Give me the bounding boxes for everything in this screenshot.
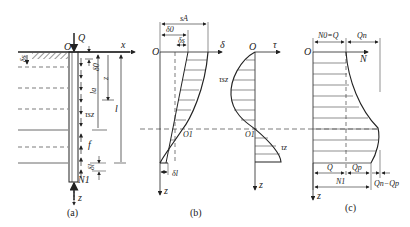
la-label: la: [89, 88, 98, 94]
pile-length-label: l: [115, 103, 118, 114]
z-axis-label: z: [77, 192, 82, 203]
N1-label: N1: [335, 177, 345, 186]
origin-c-label: O: [304, 46, 311, 57]
pile-load-diagram: x O Q δs τsz: [0, 0, 410, 227]
x-axis-label: x: [120, 39, 126, 50]
soil-settlement-curve: [160, 52, 208, 163]
neutral-point-label-b: O1: [183, 130, 193, 139]
N-axis-label: N: [359, 53, 368, 64]
panel-a: x O Q δs τsz: [18, 32, 135, 219]
tau-z-label: τz: [281, 143, 288, 152]
load-label: Q: [78, 32, 86, 43]
friction-f-label: f: [88, 139, 92, 150]
tau-axis-label: τ: [273, 39, 277, 50]
origin-tau-label: O: [249, 41, 256, 52]
shear-stress-plot: O τ z τsz O1 τz: [219, 39, 288, 190]
panel-b: O δ z O1 sA δ0: [152, 14, 225, 219]
pile-head-displacement-label: δ0: [92, 63, 101, 71]
tip-reaction-label: N1: [77, 174, 90, 185]
tau-sz-label: τsz: [219, 75, 229, 84]
shear-stress-curve: [231, 52, 281, 162]
sa-label: sA: [180, 14, 188, 23]
shear-stress-label: τsz: [85, 110, 95, 119]
z-axis-b-label: z: [163, 185, 168, 196]
ds-label: δs: [178, 36, 185, 45]
panel-b-caption: (b): [190, 207, 202, 219]
z-axis-tau-label: z: [258, 179, 263, 190]
Qp-label: Qp: [352, 163, 362, 172]
soil-settlement-label: δs: [19, 55, 28, 62]
pile-tip-displacement-label: δl: [87, 163, 96, 170]
soil-hatch: [32, 53, 68, 59]
Qn-label: Qn: [357, 31, 367, 40]
panel-a-caption: (a): [67, 207, 78, 219]
z-axis-c-label: z: [316, 190, 321, 201]
panel-c-caption: (c): [345, 202, 356, 214]
dl-label: δl: [172, 169, 179, 178]
d0-label: δ0: [166, 25, 174, 34]
depth-z-label: z: [101, 76, 110, 81]
axial-force-curve: [346, 52, 379, 163]
delta-axis-label: δ: [220, 39, 225, 50]
Qn-minus-Qp-label: Qn−Qp: [374, 179, 399, 188]
N0-label: N0=Q: [317, 31, 339, 40]
origin-b-label: O: [152, 46, 159, 57]
neutral-point-label-tau: O1: [245, 130, 255, 139]
panel-c: O N z N0=Q Qn: [304, 31, 399, 214]
pile: [69, 52, 78, 182]
origin-label: O: [64, 41, 71, 52]
Q-label: Q: [327, 163, 333, 172]
